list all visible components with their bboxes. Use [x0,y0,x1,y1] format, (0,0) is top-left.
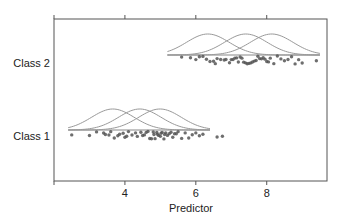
chart: 468 Class 2 Class 1 Predictor [0,0,340,222]
density-curve-class-1-2 [68,109,210,130]
point-class-1-6 [109,130,112,133]
x-tick-label-8: 8 [264,187,270,199]
point-class-2-0 [180,55,183,58]
x-axis-ticks: 468 [54,15,270,199]
point-class-2-38 [276,54,279,57]
point-class-1-42 [176,130,179,133]
x-tick-label-6: 6 [193,187,199,199]
point-class-1-43 [180,137,183,140]
point-class-2-42 [290,55,293,58]
category-label-class-2: Class 2 [13,57,50,69]
point-class-1-38 [169,131,172,134]
point-class-1-48 [198,134,201,137]
point-class-1-15 [134,131,137,134]
point-class-1-49 [201,133,204,136]
point-class-1-44 [183,131,186,134]
point-class-2-46 [315,59,318,62]
point-class-2-35 [267,60,270,63]
point-class-2-40 [283,59,286,62]
point-class-2-36 [269,56,272,59]
point-class-2-12 [224,58,227,61]
density-curves [68,34,320,130]
point-class-1-16 [136,135,139,138]
point-class-1-17 [139,131,142,134]
point-class-2-41 [286,58,289,61]
point-class-2-5 [205,58,208,61]
point-class-1-23 [150,137,153,140]
point-class-2-9 [215,57,218,60]
point-class-1-0 [70,133,73,136]
point-class-1-13 [127,130,130,133]
point-class-1-30 [159,135,162,138]
point-class-2-10 [219,58,222,61]
point-class-1-50 [215,135,218,138]
point-class-2-44 [297,58,300,61]
point-class-1-21 [146,130,149,133]
point-class-2-2 [194,58,197,61]
point-class-1-39 [171,135,174,138]
point-class-1-51 [221,135,224,138]
point-class-1-25 [152,133,155,136]
plot-border [54,19,327,181]
point-class-1-14 [130,133,133,136]
point-class-1-7 [113,136,116,139]
point-class-1-47 [194,131,197,134]
point-class-1-1 [88,134,91,137]
point-class-1-2 [95,130,98,133]
point-class-2-18 [237,60,240,63]
point-class-2-28 [254,59,257,62]
point-class-2-43 [293,62,296,65]
point-class-2-13 [228,61,231,64]
point-class-2-6 [208,60,211,63]
density-curve-class-2-3 [167,34,319,55]
x-axis-title: Predictor [169,202,213,214]
point-class-1-9 [118,133,121,136]
data-points [70,54,318,140]
point-class-1-45 [187,136,190,139]
plot-frame [54,19,327,181]
point-class-1-10 [121,132,124,135]
point-class-1-4 [104,133,107,136]
point-class-1-46 [191,133,194,136]
point-class-2-17 [235,56,238,59]
point-class-2-3 [198,55,201,58]
point-class-2-1 [189,56,192,59]
point-class-1-33 [162,137,165,140]
density-curve-class-1-3 [68,109,210,130]
x-tick-label-4: 4 [122,187,128,199]
point-class-2-4 [201,55,204,58]
point-class-1-26 [153,137,156,140]
point-class-1-12 [125,135,128,138]
point-class-1-5 [107,133,110,136]
point-class-2-20 [240,56,243,59]
point-class-2-37 [272,62,275,65]
point-class-2-39 [279,57,282,60]
category-label-class-1: Class 1 [13,130,50,142]
point-class-2-45 [300,61,303,64]
point-class-2-8 [214,62,217,65]
density-curve-class-1-1 [68,109,210,130]
